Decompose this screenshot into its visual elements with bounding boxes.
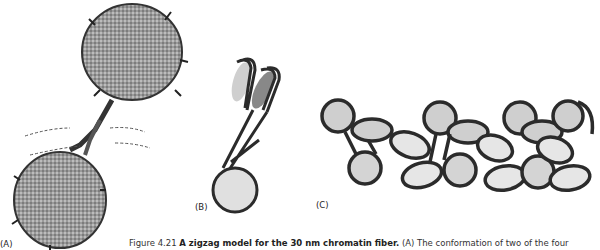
caption-title: A zigzag model for the 30 nm chromatin f… bbox=[179, 238, 399, 248]
panel-b-label: (B) bbox=[195, 202, 207, 212]
figure-caption: Figure 4.21 A zigzag model for the 30 nm… bbox=[129, 238, 569, 248]
caption-number: Figure 4.21 bbox=[129, 238, 177, 248]
panel-b-schematic: (B) bbox=[195, 50, 315, 225]
chromatin-fiber-zigzag bbox=[310, 90, 600, 225]
caption-text: (A) The conformation of two of the four bbox=[402, 238, 569, 248]
panel-a-atomic-structure: (A) bbox=[0, 0, 200, 250]
nucleosome-atomic-image bbox=[0, 0, 200, 250]
panel-c-zigzag-fiber: (C) bbox=[310, 90, 600, 225]
panel-c-label: (C) bbox=[316, 200, 329, 210]
panel-a-label: (A) bbox=[0, 239, 12, 249]
nucleosome-zigzag-schematic bbox=[195, 50, 315, 225]
